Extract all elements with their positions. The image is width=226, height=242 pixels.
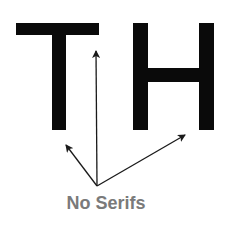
letter-h: [133, 23, 214, 130]
letter-t: [16, 23, 99, 130]
arrow-up-icon: [96, 51, 97, 186]
arrow-up-left-icon: [66, 145, 97, 186]
arrow-up-right-icon: [97, 135, 185, 186]
caption-no-serifs: No Serifs: [58, 193, 154, 214]
